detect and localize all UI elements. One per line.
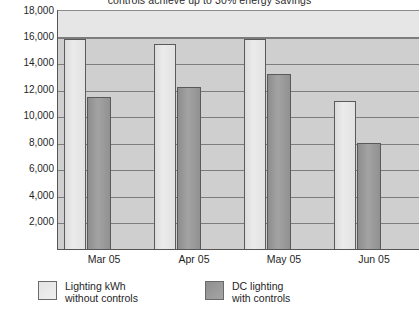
legend-swatch-light: [38, 281, 57, 300]
y-tick-label: 8,000: [2, 138, 54, 148]
legend-item-with-controls: DC lighting with controls: [205, 281, 290, 304]
x-tick-label-2: May 05: [239, 253, 329, 265]
y-tick-label: 12,000: [2, 85, 54, 95]
y-axis-ticks: 18,000 16,000 14,000 12,000 10,000 8,000…: [0, 0, 54, 316]
legend-label-line1: Lighting kWh: [65, 281, 138, 293]
y-tick-label: 6,000: [2, 164, 54, 174]
y-tick-label: 2,000: [2, 217, 54, 227]
bar-light-2: [244, 39, 266, 250]
bar-light-0: [64, 39, 86, 250]
legend-item-without-controls: Lighting kWh without controls: [38, 281, 138, 304]
bar-dark-3: [357, 143, 381, 250]
y-tick-label: 10,000: [2, 111, 54, 121]
bar-group-0: [60, 11, 150, 250]
bar-light-1: [154, 44, 176, 250]
legend-label-line2: with controls: [232, 293, 290, 305]
bar-group-1: [150, 11, 240, 250]
bars-layer: [58, 11, 419, 250]
bar-group-2: [240, 11, 330, 250]
legend-label-without-controls: Lighting kWh without controls: [65, 281, 138, 304]
y-tick-label: 4,000: [2, 191, 54, 201]
legend-swatch-dark: [205, 281, 224, 300]
x-tick-label-3: Jun 05: [329, 253, 419, 265]
bar-dark-2: [267, 74, 291, 250]
legend-label-with-controls: DC lighting with controls: [232, 281, 290, 304]
legend-label-line2: without controls: [65, 293, 138, 305]
chart-title: controls achieve up to 30% energy saving…: [0, 0, 419, 6]
bar-dark-0: [87, 97, 111, 250]
x-tick-label-1: Apr 05: [149, 253, 239, 265]
y-tick-label: 14,000: [2, 58, 54, 68]
x-tick-label-0: Mar 05: [59, 253, 149, 265]
bar-group-3: [330, 11, 419, 250]
bar-light-3: [334, 101, 356, 250]
bar-dark-1: [177, 87, 201, 250]
plot-area: [57, 10, 419, 250]
x-axis-line: [57, 249, 419, 250]
chart-legend: Lighting kWh without controls DC lightin…: [0, 277, 419, 316]
y-tick-label: 16,000: [2, 32, 54, 42]
y-tick-label: 18,000: [2, 6, 54, 16]
legend-label-line1: DC lighting: [232, 281, 290, 293]
y-axis-line: [57, 10, 58, 250]
